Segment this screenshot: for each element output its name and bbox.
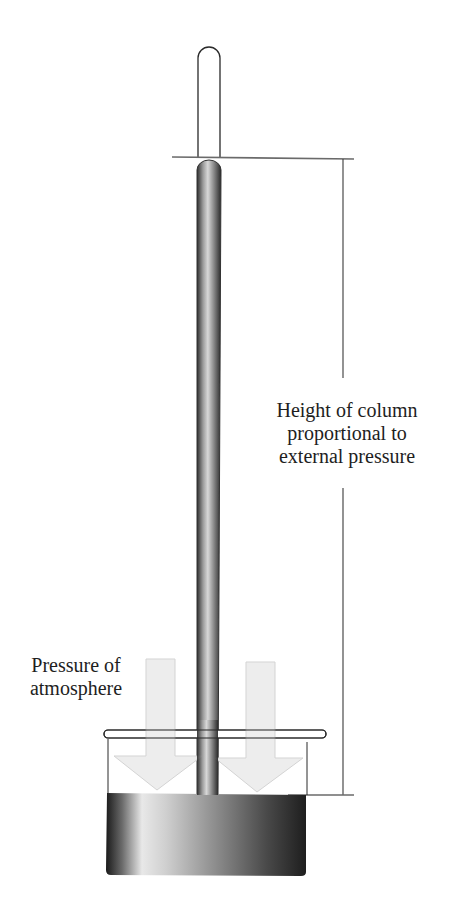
pressure-label-line-1: Pressure of — [16, 654, 136, 677]
height-label-line-2: proportional to — [252, 422, 442, 445]
pressure-arrow-right — [215, 662, 303, 792]
mercury-column — [197, 160, 221, 795]
glass-tube — [198, 47, 220, 158]
height-label-line-1: Height of column — [252, 399, 442, 422]
pressure-label: Pressure of atmosphere — [16, 654, 136, 700]
height-label: Height of column proportional to externa… — [252, 399, 442, 468]
height-label-line-3: external pressure — [252, 445, 442, 468]
pressure-label-line-2: atmosphere — [16, 677, 136, 700]
